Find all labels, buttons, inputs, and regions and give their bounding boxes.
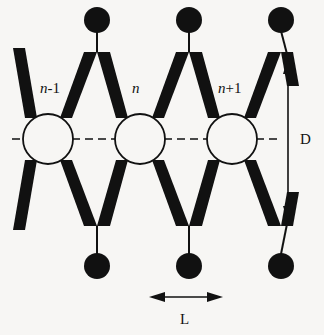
bar-upper-2-right bbox=[152, 52, 189, 118]
bar-lower-1-right bbox=[60, 160, 97, 226]
open-circle-n-minus-1 bbox=[23, 114, 73, 164]
bar-upper-2-left bbox=[97, 52, 128, 118]
unit-label-n-minus-1-symbol: n bbox=[40, 80, 48, 96]
bar-upper-1-right bbox=[60, 52, 97, 118]
bar-upper-3-right bbox=[244, 52, 281, 118]
bar-upper-3-left bbox=[189, 52, 220, 118]
filled-circle-top-3 bbox=[268, 7, 294, 33]
stem-top-3 bbox=[281, 31, 287, 54]
diagram-canvas bbox=[0, 0, 324, 335]
bar-lower-3-right bbox=[244, 160, 281, 226]
stem-bottom-3 bbox=[281, 224, 287, 254]
filled-circle-bottom-2 bbox=[176, 253, 202, 279]
unit-label-n: n bbox=[132, 80, 140, 97]
dimension-label-L: L bbox=[180, 311, 189, 328]
bar-upper-left-truncated bbox=[13, 48, 37, 118]
chain-schematic-figure: n-1 n n+1 D L bbox=[0, 0, 324, 335]
dimension-L-arrowhead-left bbox=[149, 292, 165, 302]
unit-label-n-plus-1-suffix: +1 bbox=[226, 80, 242, 96]
bar-lower-left-truncated bbox=[13, 160, 37, 230]
filled-circle-bottom-1 bbox=[84, 253, 110, 279]
bar-lower-2-right bbox=[152, 160, 189, 226]
unit-label-n-minus-1: n-1 bbox=[40, 80, 60, 97]
dimension-arrow-L bbox=[149, 292, 223, 302]
bar-lower-3-left bbox=[189, 160, 220, 226]
filled-circle-top-1 bbox=[84, 7, 110, 33]
bar-lower-2-left bbox=[97, 160, 128, 226]
filled-circle-top-2 bbox=[176, 7, 202, 33]
dimension-L-arrowhead-right bbox=[207, 292, 223, 302]
open-circle-n bbox=[115, 114, 165, 164]
chain-unit-open-circles bbox=[23, 114, 257, 164]
unit-label-n-plus-1-symbol: n bbox=[218, 80, 226, 96]
filled-circle-bottom-3 bbox=[268, 253, 294, 279]
unit-label-n-minus-1-suffix: -1 bbox=[48, 80, 61, 96]
unit-label-n-plus-1: n+1 bbox=[218, 80, 241, 97]
lower-zigzag-bars bbox=[13, 160, 299, 230]
dimension-label-D: D bbox=[300, 131, 311, 148]
unit-label-n-symbol: n bbox=[132, 80, 140, 96]
open-circle-n-plus-1 bbox=[207, 114, 257, 164]
